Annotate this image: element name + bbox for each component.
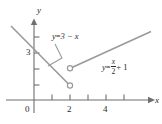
open-endpoint-marker-lower bbox=[67, 83, 72, 88]
equation-label-line2: y= x 2 + 1 bbox=[102, 58, 128, 75]
x-tick-label-4: 4 bbox=[103, 105, 108, 114]
y-axis-ticks bbox=[34, 37, 40, 85]
x-axis-label: x bbox=[155, 96, 159, 105]
equation-label-line1: y=3 − x bbox=[52, 32, 79, 41]
y-axis bbox=[31, 19, 40, 114]
equation2-plus-term: + 1 bbox=[116, 62, 127, 72]
y-axis-label: y bbox=[37, 6, 41, 15]
x-axis bbox=[6, 95, 155, 104]
leader-line-3-minus-x bbox=[48, 44, 62, 66]
x-axis-ticks bbox=[52, 95, 124, 101]
graph-figure: y x 0 2 4 3 y=3 − x y= x 2 + 1 bbox=[0, 0, 162, 124]
equation1-rhs: 3 − x bbox=[61, 31, 79, 41]
origin-tick-label: 0 bbox=[25, 105, 30, 114]
x-tick-label-2: 2 bbox=[67, 105, 72, 114]
y-axis-arrow bbox=[31, 19, 37, 26]
y-tick-label-3: 3 bbox=[26, 48, 31, 57]
open-endpoint-marker-upper bbox=[67, 66, 72, 71]
x-axis-arrow bbox=[148, 97, 155, 103]
